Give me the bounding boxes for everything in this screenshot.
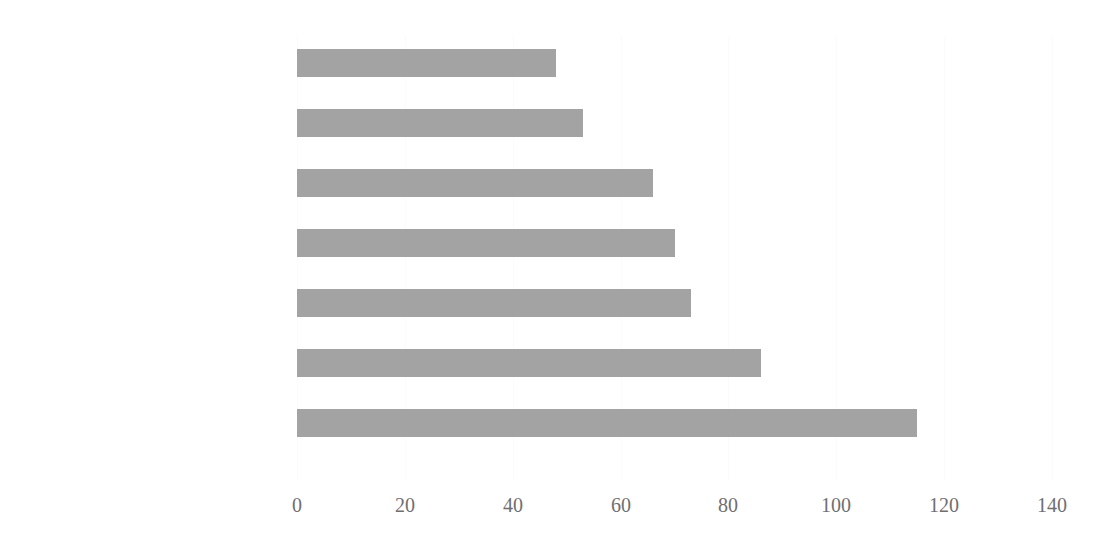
bar-canada bbox=[297, 169, 653, 197]
bar-sweden bbox=[297, 349, 761, 377]
x-tick-label: 0 bbox=[292, 491, 302, 519]
gridline-120 bbox=[944, 36, 945, 481]
x-tick-label: 40 bbox=[503, 491, 523, 519]
plot-area: Poland (1966-2013) Hungary (1941-1994) C… bbox=[297, 36, 1052, 481]
x-axis: 0 20 40 60 80 100 120 140 bbox=[297, 491, 1052, 531]
x-tick-label: 120 bbox=[929, 491, 959, 519]
x-tick-label: 140 bbox=[1037, 491, 1067, 519]
bar-poland bbox=[297, 49, 556, 77]
bar-us bbox=[297, 229, 675, 257]
x-tick-label: 60 bbox=[611, 491, 631, 519]
x-tick-label: 80 bbox=[718, 491, 738, 519]
bar-chart: Poland (1966-2013) Hungary (1941-1994) C… bbox=[0, 0, 1116, 547]
gridline-140 bbox=[1052, 36, 1053, 481]
bar-hungary bbox=[297, 109, 583, 137]
bar-australia bbox=[297, 289, 691, 317]
x-tick-label: 100 bbox=[821, 491, 851, 519]
x-tick-label: 20 bbox=[395, 491, 415, 519]
bar-france bbox=[297, 409, 917, 437]
